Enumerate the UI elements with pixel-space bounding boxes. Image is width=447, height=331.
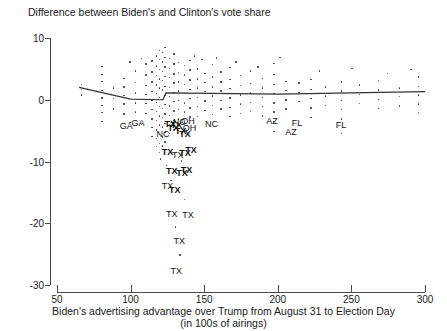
x-tick-mark <box>425 285 426 292</box>
y-axis-line <box>50 38 51 285</box>
x-tick-mark <box>278 285 279 292</box>
x-tick-mark <box>351 285 352 292</box>
y-tick-label: -20 <box>0 218 44 229</box>
state-label-tx: TX <box>166 209 178 219</box>
x-tick-label: 50 <box>51 294 62 305</box>
chart-title: Difference between Biden's and Clinton's… <box>28 6 271 18</box>
state-label-az: AZ <box>285 127 297 137</box>
state-label-tx: TX <box>170 266 182 276</box>
state-label-az: AZ <box>266 116 278 126</box>
x-axis-line <box>57 292 425 293</box>
x-tick-label: 150 <box>196 294 213 305</box>
y-tick-mark <box>45 100 50 101</box>
plot-area: GAGANCTXTXTXNCOHOHTXTXNCTXTXTXTXTXTXTXTX… <box>57 38 425 285</box>
y-tick-mark <box>45 223 50 224</box>
state-label-tx: TX <box>169 185 181 195</box>
x-tick-label: 300 <box>417 294 434 305</box>
state-label-nc: NC <box>205 119 218 129</box>
x-axis-label-line1: Biden's advertising advantage over Trump… <box>0 305 447 317</box>
x-tick-mark <box>131 285 132 292</box>
y-tick-label: 0 <box>0 94 44 105</box>
y-tick-label: -30 <box>0 280 44 291</box>
y-tick-mark <box>45 38 50 39</box>
state-label-tx: TX <box>182 210 194 220</box>
state-label-tx: TX <box>181 165 193 175</box>
state-label-fl: FL <box>336 120 347 130</box>
state-label-ga: GA <box>131 118 144 128</box>
x-tick-label: 100 <box>122 294 139 305</box>
x-tick-mark <box>204 285 205 292</box>
x-axis-label-line2: (in 100s of airings) <box>0 317 447 329</box>
y-tick-label: -10 <box>0 156 44 167</box>
y-tick-mark <box>45 162 50 163</box>
x-tick-mark <box>57 285 58 292</box>
trend-line <box>57 38 425 285</box>
trend-line-path <box>79 87 425 99</box>
state-label-fl: FL <box>292 118 303 128</box>
x-tick-label: 200 <box>269 294 286 305</box>
scatter-plot-figure: Difference between Biden's and Clinton's… <box>0 0 447 331</box>
state-label-tx: TX <box>185 145 197 155</box>
y-tick-label: 10 <box>0 33 44 44</box>
x-tick-label: 250 <box>343 294 360 305</box>
state-label-tx: TX <box>179 129 191 139</box>
state-label-tx: TX <box>173 236 185 246</box>
y-tick-mark <box>45 285 50 286</box>
